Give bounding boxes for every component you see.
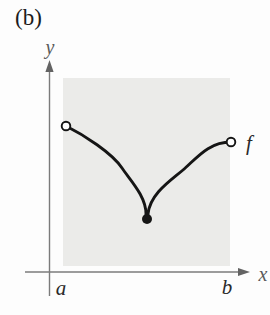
closed-point-cusp bbox=[142, 214, 152, 224]
tick-label-a: a bbox=[56, 276, 67, 300]
shaded-region bbox=[63, 78, 230, 266]
figure-canvas: (b) y x a b f bbox=[0, 0, 270, 315]
x-axis-arrowhead bbox=[238, 268, 250, 276]
y-axis-arrowhead bbox=[45, 60, 53, 72]
function-label: f bbox=[246, 131, 255, 155]
y-axis-label: y bbox=[44, 36, 55, 59]
x-axis-label: x bbox=[258, 263, 268, 285]
open-endpoint-right bbox=[227, 138, 236, 147]
figure-panel: (b) y x a b f bbox=[0, 0, 270, 315]
panel-label: (b) bbox=[15, 5, 42, 30]
open-endpoint-left bbox=[62, 122, 71, 131]
tick-label-b: b bbox=[222, 275, 233, 299]
